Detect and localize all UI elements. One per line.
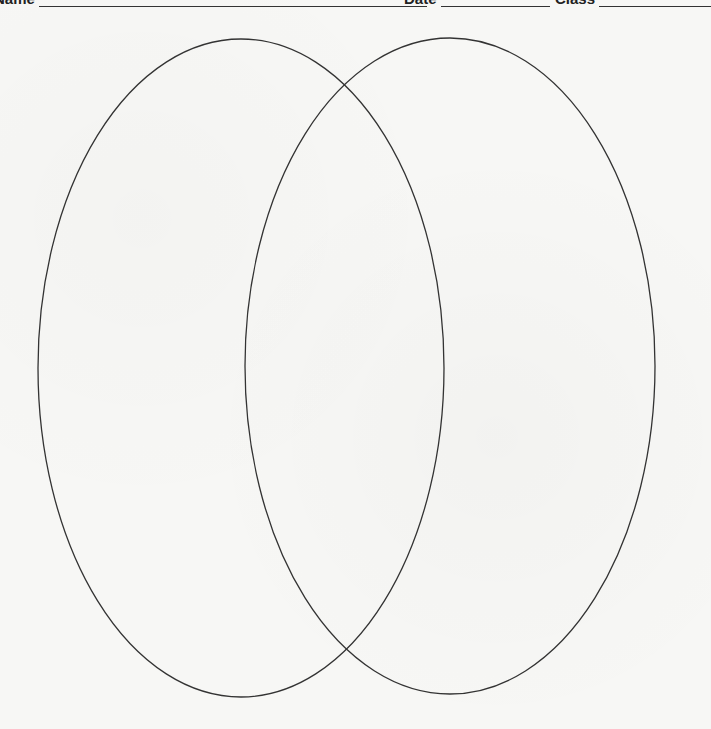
right-circle[interactable]: [245, 38, 655, 694]
left-circle[interactable]: [38, 39, 444, 697]
